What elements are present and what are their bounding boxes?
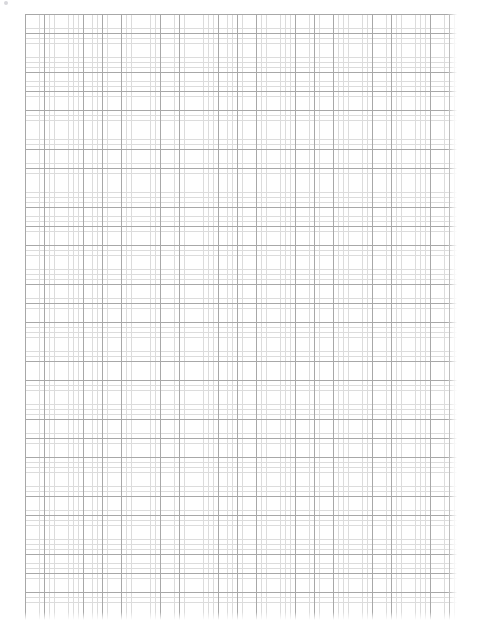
graph-paper-grid <box>25 14 457 620</box>
graph-paper-page <box>0 0 482 637</box>
grid-right-fade <box>447 14 457 620</box>
dot-icon <box>4 1 8 5</box>
page-header-strip <box>0 0 482 9</box>
grid-bottom-fade <box>25 612 457 620</box>
